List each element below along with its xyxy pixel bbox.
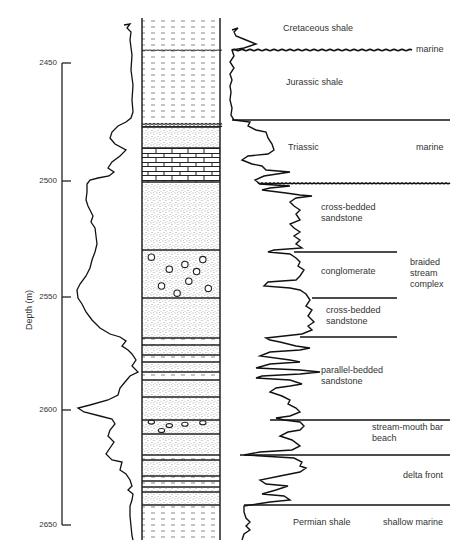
unit-label: cross-beddedsandstone bbox=[321, 202, 376, 224]
unit-label-line: parallel-bedded bbox=[321, 365, 383, 376]
unconformity-line bbox=[258, 183, 450, 184]
unit-label: conglomerate bbox=[321, 266, 376, 277]
environment-label: shallow marine bbox=[383, 517, 443, 528]
right-log-trace bbox=[230, 28, 320, 540]
depth-axis bbox=[62, 63, 71, 525]
layer-sandstone bbox=[142, 397, 220, 420]
layer-shale bbox=[142, 481, 220, 487]
unit-label-line: cross-bedded bbox=[321, 202, 376, 213]
axis-title: Depth (m) bbox=[24, 290, 34, 330]
layer-shale bbox=[142, 50, 220, 122]
unit-label-line: stream-mouth bar bbox=[372, 422, 443, 433]
layer-sandstone bbox=[142, 434, 220, 455]
environment-label: braidedstreamcomplex bbox=[410, 257, 444, 290]
unit-label-line: sandstone bbox=[321, 376, 383, 387]
layer-sandstone bbox=[142, 362, 220, 372]
layer-shale bbox=[142, 338, 220, 345]
layer-sandstone bbox=[142, 380, 220, 397]
unit-label-line: cross-bedded bbox=[326, 305, 381, 316]
unit-label: Permian shale bbox=[293, 517, 351, 528]
layer-shale bbox=[142, 18, 220, 50]
environment-label-line: complex bbox=[410, 279, 444, 290]
unit-label: cross-beddedsandstone bbox=[326, 305, 381, 327]
left-log-trace bbox=[77, 24, 138, 540]
layer-sandstone bbox=[142, 492, 220, 505]
unit-label: Triassic bbox=[288, 142, 319, 153]
environment-label: marine bbox=[416, 44, 444, 55]
unit-label-line: beach bbox=[372, 433, 443, 444]
layer-shale bbox=[142, 505, 220, 540]
unit-label-line: sandstone bbox=[326, 316, 381, 327]
layer-sandstone bbox=[142, 182, 220, 250]
unit-label: delta front bbox=[403, 470, 443, 481]
environment-label-line: stream bbox=[410, 268, 444, 279]
layer-shale bbox=[142, 372, 220, 380]
unit-label: Cretaceous shale bbox=[283, 23, 353, 34]
tick-label: 2450 bbox=[25, 58, 57, 67]
unit-label: stream-mouth barbeach bbox=[372, 422, 443, 444]
tick-label: 2500 bbox=[25, 176, 57, 185]
environment-label: marine bbox=[416, 142, 444, 153]
layer-sandstone bbox=[142, 298, 220, 338]
tick-label: 2650 bbox=[25, 520, 57, 529]
environment-label-line: braided bbox=[410, 257, 444, 268]
layer-shale bbox=[142, 355, 220, 362]
layer-limestone bbox=[142, 148, 220, 182]
unit-label-line: sandstone bbox=[321, 213, 376, 224]
layer-sandstone bbox=[142, 460, 220, 476]
lithology-column bbox=[142, 18, 222, 540]
unconformity-line bbox=[232, 49, 412, 50]
unit-label: Jurassic shale bbox=[286, 77, 343, 88]
layer-sandstone bbox=[142, 345, 220, 355]
tick-label: 2600 bbox=[25, 405, 57, 414]
layer-sandstone bbox=[142, 127, 220, 148]
unit-label: parallel-beddedsandstone bbox=[321, 365, 383, 387]
